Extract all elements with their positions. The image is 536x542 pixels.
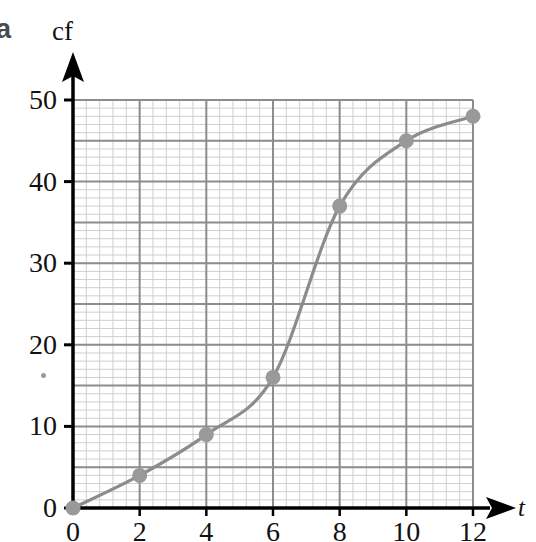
x-tick-label: 8 <box>333 516 347 542</box>
x-tick-label: 12 <box>459 516 487 542</box>
x-tick-label: 4 <box>199 516 213 542</box>
data-point <box>266 370 281 385</box>
axis-tick-marks <box>64 100 473 516</box>
y-tick-label: 50 <box>29 84 57 116</box>
data-point <box>466 109 481 124</box>
data-point <box>332 199 347 214</box>
data-point <box>66 501 81 516</box>
y-tick-label: 10 <box>29 410 57 442</box>
x-tick-label: 0 <box>66 516 80 542</box>
chart-canvas <box>0 0 536 542</box>
x-tick-label: 6 <box>266 516 280 542</box>
print-speck <box>41 373 46 378</box>
y-tick-label: 20 <box>29 329 57 361</box>
x-tick-label: 10 <box>392 516 420 542</box>
y-tick-label: 30 <box>29 247 57 279</box>
cumulative-frequency-figure: a cf t 01020304050024681012 <box>0 0 536 542</box>
y-tick-label: 40 <box>29 166 57 198</box>
grid-major-lines <box>73 100 473 508</box>
x-tick-label: 2 <box>133 516 147 542</box>
data-point <box>399 133 414 148</box>
data-point <box>199 427 214 442</box>
data-point <box>132 468 147 483</box>
y-tick-label: 0 <box>43 492 57 524</box>
